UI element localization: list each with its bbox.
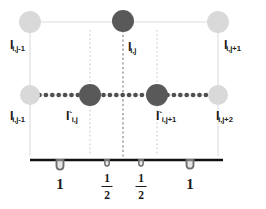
node-mid-left[interactable]: [20, 85, 40, 105]
label-node-mid-left: Ii,j-1: [10, 110, 25, 124]
label-subscript: i,j: [130, 46, 136, 55]
label-node-mid-inner-right: I`i,j+1: [156, 110, 176, 124]
label-subscript: i,j+1: [162, 115, 177, 124]
spacing-label-3: 1 2: [136, 172, 147, 201]
spacing-label-2: 1 2: [102, 172, 113, 201]
fraction-denominator: 2: [102, 189, 113, 201]
node-mid-inner-right[interactable]: [146, 84, 168, 106]
label-subscript: i,j: [72, 115, 78, 124]
label-node-mid-inner-left: I`i,j: [66, 110, 78, 124]
label-subscript: i,j-1: [12, 44, 25, 53]
grid-vertical-lines: [30, 21, 218, 159]
label-node-top-center: Ii,j: [128, 41, 136, 55]
grid-horizontal-lines: [30, 22, 218, 95]
u-marker-icon-1: [57, 159, 64, 170]
fraction-numerator: 1: [136, 172, 147, 184]
node-mid-inner-left[interactable]: [79, 84, 101, 106]
node-mid-right[interactable]: [208, 85, 228, 105]
u-marker-icon-3: [139, 159, 143, 166]
label-subscript: i,j+2: [218, 115, 233, 124]
node-top-right[interactable]: [207, 11, 229, 33]
fraction-bar: [102, 186, 113, 187]
node-top-center[interactable]: [112, 10, 134, 32]
u-marker-icon-2: [105, 159, 109, 166]
diagram-canvas: [0, 0, 266, 209]
fraction-bar: [136, 186, 147, 187]
label-node-top-left: Ii,j-1: [10, 39, 25, 53]
label-node-mid-right: Ii,j+2: [216, 110, 233, 124]
fraction-denominator: 2: [136, 189, 147, 201]
label-node-top-right: Ii,j+1: [224, 39, 241, 53]
grid-stencil-figure: Ii,j-1 Ii,j Ii,j+1 Ii,j-1 I`i,j I`i,j+1 …: [0, 0, 266, 209]
fraction-numerator: 1: [102, 172, 113, 184]
spacing-label-1: 1: [56, 177, 64, 192]
node-top-left[interactable]: [19, 11, 41, 33]
u-marker-icon-4: [187, 159, 194, 169]
spacing-label-4: 1: [186, 177, 194, 192]
label-subscript: i,j-1: [12, 115, 25, 124]
label-subscript: i,j+1: [226, 44, 241, 53]
